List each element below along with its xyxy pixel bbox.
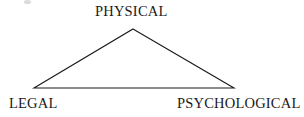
vertex-label-physical: PHYSICAL — [95, 4, 168, 19]
vertex-label-psychological: PSYCHOLOGICAL — [177, 96, 300, 111]
vertex-label-legal: LEGAL — [9, 96, 58, 111]
triangle-diagram-figure: PHYSICAL LEGAL PSYCHOLOGICAL — [0, 0, 304, 117]
triangle-polygon — [34, 29, 234, 88]
